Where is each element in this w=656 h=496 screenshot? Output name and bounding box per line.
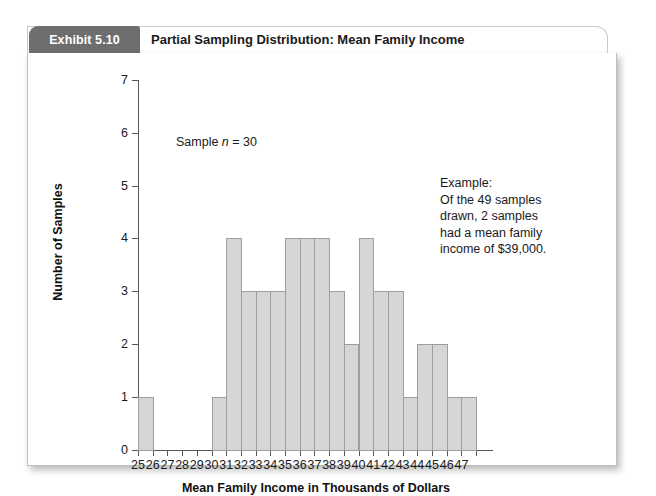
exhibit-body: 01234567 2526272829303132333435363738394… [27, 53, 617, 466]
y-axis-tick [132, 291, 138, 292]
sample-size-annotation: Sample n = 30 [176, 135, 257, 149]
histogram-bar [432, 344, 448, 451]
exhibit-title: Partial Sampling Distribution: Mean Fami… [151, 26, 465, 53]
histogram-bar [373, 291, 389, 451]
histogram-bar [447, 397, 463, 451]
histogram-bar [314, 238, 330, 451]
histogram-bar [241, 291, 257, 451]
y-axis-tick [132, 186, 138, 187]
sample-note-prefix: Sample [176, 135, 222, 149]
example-annotation-line: Of the 49 samples [440, 192, 546, 209]
example-annotation-line: drawn, 2 samples [440, 208, 546, 225]
y-axis-tick [132, 133, 138, 134]
y-axis-tick-label: 3 [68, 285, 128, 298]
histogram-bar [256, 291, 272, 451]
y-axis-tick [132, 344, 138, 345]
x-axis-tick [197, 451, 198, 456]
y-axis-tick [132, 238, 138, 239]
x-axis-tick [447, 451, 448, 456]
sample-note-suffix: = 30 [229, 135, 257, 149]
x-axis-tick [432, 451, 433, 456]
histogram-bar [388, 291, 404, 451]
x-axis-tick [285, 451, 286, 456]
histogram-bar [212, 397, 228, 451]
histogram-bar [285, 238, 301, 451]
y-axis-tick-label: 0 [68, 444, 128, 457]
x-axis-tick-label: 47 [446, 459, 476, 472]
example-annotation-line: Example: [440, 175, 546, 192]
y-axis-tick-label: 5 [68, 180, 128, 193]
x-axis-tick [344, 451, 345, 456]
exhibit-number-tab: Exhibit 5.10 [29, 26, 140, 53]
histogram-bar [417, 344, 433, 451]
x-axis-tick [138, 451, 139, 456]
y-axis-tick-label: 4 [68, 232, 128, 245]
x-axis-tick [212, 451, 213, 456]
x-axis-tick [359, 451, 360, 456]
histogram-bar [329, 291, 345, 451]
exhibit-card: Exhibit 5.10 Partial Sampling Distributi… [27, 24, 617, 467]
exhibit-number-label: Exhibit 5.10 [49, 33, 120, 47]
x-axis-tick [476, 451, 477, 456]
y-axis-title: Number of Samples [51, 132, 65, 352]
x-axis-tick [403, 451, 404, 456]
histogram-bar [270, 291, 286, 451]
x-axis-tick [373, 451, 374, 456]
x-axis-tick [329, 451, 330, 456]
x-axis-tick [153, 451, 154, 456]
histogram-bar [138, 397, 154, 451]
histogram-plot: 01234567 2526272829303132333435363738394… [28, 53, 618, 466]
y-axis-tick-label: 2 [68, 338, 128, 351]
x-axis-tick [300, 451, 301, 456]
histogram-bar [300, 238, 316, 451]
x-axis-tick [417, 451, 418, 456]
y-axis-line [138, 80, 139, 451]
x-axis-tick [461, 451, 462, 456]
x-axis-tick [226, 451, 227, 456]
y-axis-tick-label: 7 [68, 74, 128, 87]
histogram-bar [461, 397, 477, 451]
histogram-bar [359, 238, 375, 451]
x-axis-title: Mean Family Income in Thousands of Dolla… [138, 481, 494, 495]
x-axis-tick [314, 451, 315, 456]
y-axis-tick-label: 6 [68, 127, 128, 140]
x-axis-tick [167, 451, 168, 456]
example-annotation: Example:Of the 49 samplesdrawn, 2 sample… [440, 175, 546, 258]
example-annotation-line: income of $39,000. [440, 241, 546, 258]
y-axis-tick-label: 1 [68, 391, 128, 404]
x-axis-tick [241, 451, 242, 456]
y-axis-tick [132, 80, 138, 81]
histogram-bar [226, 238, 242, 451]
x-axis-tick [270, 451, 271, 456]
histogram-bar [344, 344, 360, 451]
histogram-bar [403, 397, 419, 451]
sample-note-variable: n [222, 135, 229, 149]
x-axis-tick [388, 451, 389, 456]
example-annotation-line: had a mean family [440, 225, 546, 242]
x-axis-tick [182, 451, 183, 456]
x-axis-tick [256, 451, 257, 456]
